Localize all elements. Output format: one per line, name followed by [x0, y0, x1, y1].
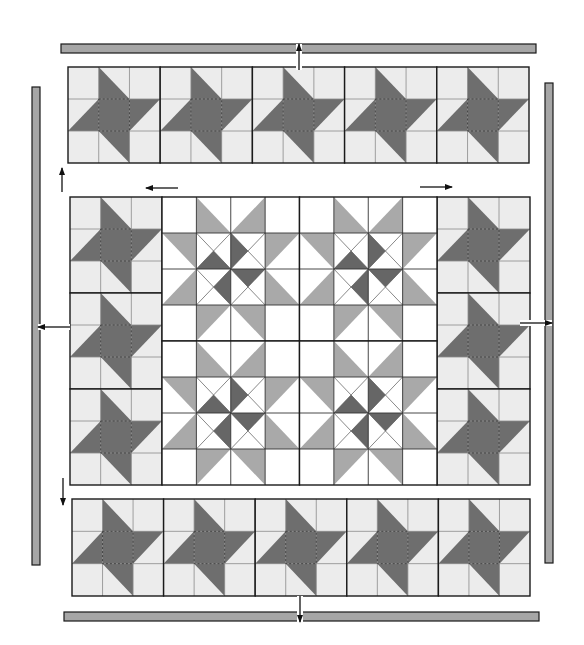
pinwheel-star-block: [162, 197, 300, 341]
star-block: [347, 499, 439, 596]
right-star-column: [437, 197, 530, 485]
star-center: [103, 531, 134, 563]
star-block: [437, 389, 530, 485]
star-center: [468, 325, 499, 357]
star-block: [70, 293, 162, 389]
star-center: [468, 99, 499, 131]
star-block: [252, 67, 344, 163]
star-center: [283, 99, 314, 131]
star-block: [437, 293, 530, 389]
star-center: [468, 421, 499, 453]
star-block: [164, 499, 256, 596]
pinwheel-star-block: [300, 197, 438, 341]
quilt-assembly-diagram: [0, 0, 584, 645]
star-center: [469, 531, 500, 563]
pinwheel-star-block: [162, 341, 300, 485]
star-center: [99, 99, 130, 131]
star-block: [72, 499, 164, 596]
star-center: [375, 99, 406, 131]
star-center: [101, 229, 132, 261]
star-block: [437, 67, 529, 163]
star-center: [191, 99, 222, 131]
bottom-star-row: [72, 499, 530, 596]
star-center: [377, 531, 408, 563]
star-block: [345, 67, 437, 163]
top-star-row: [68, 67, 529, 163]
star-center: [194, 531, 225, 563]
star-block: [437, 197, 530, 293]
left-star-column: [70, 197, 162, 485]
star-center: [101, 325, 132, 357]
star-block: [70, 389, 162, 485]
star-center: [286, 531, 317, 563]
star-center: [101, 421, 132, 453]
star-center: [468, 229, 499, 261]
center-pinwheel-section: [162, 197, 437, 485]
star-block: [160, 67, 252, 163]
star-block: [68, 67, 160, 163]
star-block: [438, 499, 530, 596]
pinwheel-star-block: [300, 341, 438, 485]
star-block: [70, 197, 162, 293]
star-block: [255, 499, 347, 596]
